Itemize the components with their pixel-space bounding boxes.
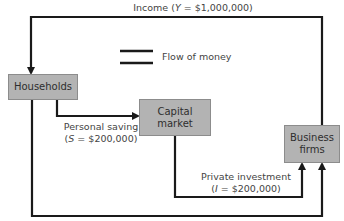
personal-saving-title: Personal saving <box>56 121 146 133</box>
capital-market-node: Capital market <box>139 99 211 136</box>
private-investment-title: Private investment <box>196 171 296 183</box>
personal-saving-amount: = $200,000) <box>74 133 137 144</box>
income-label-value: = $1,000,000) <box>181 2 253 13</box>
private-investment-label: Private investment (I = $200,000) <box>196 171 296 195</box>
capital-market-label-line2: market <box>157 118 193 130</box>
households-label: Households <box>14 81 72 93</box>
personal-saving-value: (S = $200,000) <box>56 133 146 145</box>
income-label: Income (Y = $1,000,000) <box>118 2 268 14</box>
business-firms-label-line1: Business <box>290 132 334 144</box>
legend-label: Flow of money <box>162 51 231 63</box>
legend-double-line-icon <box>120 51 153 63</box>
personal-saving-flow-line <box>57 99 138 116</box>
private-investment-value: (I = $200,000) <box>196 183 296 195</box>
capital-market-label-line1: Capital <box>157 106 192 118</box>
private-investment-amount: = $200,000) <box>218 183 281 194</box>
income-label-prefix: Income ( <box>133 2 175 13</box>
personal-saving-label: Personal saving (S = $200,000) <box>56 121 146 145</box>
circular-flow-diagram: Income (Y = $1,000,000) Flow of money Ho… <box>0 0 344 221</box>
households-node: Households <box>8 74 78 100</box>
business-firms-node: Business firms <box>284 125 340 163</box>
business-firms-label-line2: firms <box>299 144 324 156</box>
